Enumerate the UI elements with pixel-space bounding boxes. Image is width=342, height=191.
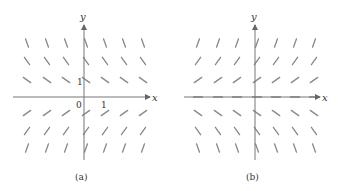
slope-segment — [310, 77, 317, 82]
y-axis-label-a: y — [79, 11, 86, 22]
slope-segment — [104, 144, 107, 152]
slope-segment — [197, 39, 200, 47]
slope-segment — [214, 77, 221, 82]
y-axis-label-b: y — [250, 11, 257, 22]
slope-segment — [313, 144, 316, 152]
slope-segment — [291, 77, 298, 82]
slope-segment — [102, 127, 107, 134]
slope-segment — [62, 77, 69, 82]
slope-segment — [272, 77, 279, 82]
slope-segment — [273, 57, 278, 64]
slope-segment — [294, 144, 297, 152]
origin-label-a: 0 — [76, 100, 82, 110]
caption-b: (b) — [246, 172, 259, 182]
slope-segment — [195, 127, 200, 134]
slope-segment — [217, 144, 220, 152]
slope-segment — [313, 39, 316, 47]
slope-segment — [272, 110, 279, 115]
slope-segment — [43, 110, 50, 115]
slope-segment — [291, 110, 298, 115]
slope-segment — [233, 77, 240, 82]
x-axis-label-a: x — [152, 92, 158, 103]
slope-segment — [256, 39, 259, 47]
slope-segment — [44, 127, 49, 134]
slope-segment — [120, 77, 127, 82]
slope-segment — [275, 39, 278, 47]
slope-segment — [43, 77, 50, 82]
slope-segment — [63, 127, 68, 134]
slope-segment — [82, 77, 89, 82]
slope-segment — [310, 110, 317, 115]
slope-segment — [142, 144, 145, 152]
slope-segment — [140, 57, 145, 64]
slope-segment — [139, 77, 146, 82]
slope-segment — [292, 57, 297, 64]
slope-field-figure: x y 0 1 1 (a) x y (b) — [0, 0, 342, 191]
slope-segment — [236, 39, 239, 47]
slope-segment — [46, 39, 49, 47]
caption-a: (a) — [75, 172, 87, 182]
y-tick-label-a: 1 — [77, 77, 83, 87]
slope-segment — [101, 110, 108, 115]
panel-a: x y 0 1 1 (a) — [13, 11, 158, 182]
slope-segment — [121, 57, 126, 64]
x-axis-label-b: x — [322, 92, 328, 103]
slope-segment — [233, 110, 240, 115]
slope-segment — [85, 39, 88, 47]
slope-segment — [217, 39, 220, 47]
slope-segment — [24, 127, 29, 134]
slope-segment — [63, 57, 68, 64]
slope-segment — [23, 110, 30, 115]
slope-segment — [24, 57, 29, 64]
slope-segment — [123, 39, 126, 47]
slope-segment — [294, 39, 297, 47]
slope-segment — [214, 110, 221, 115]
slope-segment — [253, 77, 260, 82]
slope-segment — [236, 144, 239, 152]
slope-segment — [215, 127, 220, 134]
slope-segment — [23, 77, 30, 82]
slope-segment — [275, 144, 278, 152]
slope-segment — [65, 39, 68, 47]
slope-segment — [101, 77, 108, 82]
slope-segment — [44, 57, 49, 64]
slope-segment — [292, 127, 297, 134]
slope-segment — [65, 144, 68, 152]
slope-segment — [273, 127, 278, 134]
slope-segment — [234, 57, 239, 64]
slope-segment — [311, 127, 316, 134]
slope-segment — [197, 144, 200, 152]
slope-segment — [253, 110, 260, 115]
slope-segment — [104, 39, 107, 47]
slope-segment — [121, 127, 126, 134]
slope-segment — [120, 110, 127, 115]
slope-segment — [194, 77, 201, 82]
panel-b: x y (b) — [184, 11, 328, 182]
slope-segment — [46, 144, 49, 152]
slope-segment — [140, 127, 145, 134]
slope-segment — [195, 57, 200, 64]
slope-segment — [82, 110, 89, 115]
slope-segment — [102, 57, 107, 64]
slope-segments-a — [23, 39, 146, 152]
slope-segment — [62, 110, 69, 115]
slope-segment — [194, 110, 201, 115]
slope-segment — [234, 127, 239, 134]
slope-segment — [26, 144, 29, 152]
slope-segment — [142, 39, 145, 47]
slope-segment — [26, 39, 29, 47]
slope-segment — [85, 144, 88, 152]
slope-segment — [311, 57, 316, 64]
slope-segment — [123, 144, 126, 152]
slope-segment — [139, 110, 146, 115]
x-tick-label-a: 1 — [101, 100, 107, 110]
slope-segment — [256, 144, 259, 152]
slope-segment — [215, 57, 220, 64]
slope-segments-b — [194, 39, 319, 152]
